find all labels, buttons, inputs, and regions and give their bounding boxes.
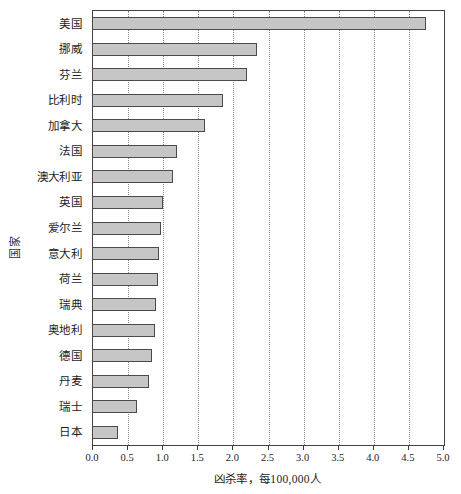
bar-row [93, 139, 444, 165]
bar-row [93, 266, 444, 292]
x-tickmark [127, 445, 128, 450]
bar-row [93, 164, 444, 190]
x-tickmark [443, 445, 444, 450]
category-label: 德国 [26, 342, 88, 368]
bars-layer [93, 11, 444, 445]
bar [92, 400, 137, 413]
x-axis-title: 凶杀率，每100,000人 [92, 470, 443, 486]
category-label: 美国 [26, 10, 88, 36]
bar [92, 247, 159, 260]
bar-row [93, 420, 444, 446]
y-axis-title-label: 国家 [5, 236, 21, 259]
category-label: 加拿大 [26, 112, 88, 138]
category-label: 挪威 [26, 36, 88, 62]
x-axis-ticklabels: 0.00.51.01.52.02.53.03.54.04.55.0 [92, 452, 443, 468]
x-ticklabel: 0.5 [121, 452, 134, 463]
bar-row [93, 37, 444, 63]
x-ticklabel: 3.0 [296, 452, 309, 463]
category-label: 澳大利亚 [26, 163, 88, 189]
category-label: 法国 [26, 138, 88, 164]
x-tickmark [303, 445, 304, 450]
x-tickmark [92, 445, 93, 450]
x-tickmark [268, 445, 269, 450]
category-label: 比利时 [26, 87, 88, 113]
x-ticklabel: 2.5 [261, 452, 274, 463]
x-ticklabel: 1.5 [191, 452, 204, 463]
category-label: 芬兰 [26, 61, 88, 87]
homicide-rate-bar-chart: 国家 美国挪威芬兰比利时加拿大法国澳大利亚英国爱尔兰意大利荷兰瑞典奥地利德国丹麦… [0, 0, 461, 494]
bar [92, 273, 158, 286]
x-tickmark [197, 445, 198, 450]
x-tickmark [162, 445, 163, 450]
bar-row [93, 113, 444, 139]
bar [92, 68, 247, 81]
bar [92, 324, 155, 337]
bar [92, 298, 156, 311]
x-tickmark [232, 445, 233, 450]
bar-row [93, 394, 444, 420]
bar-row [93, 62, 444, 88]
bar-row [93, 317, 444, 343]
bar-row [93, 215, 444, 241]
bar-row [93, 292, 444, 318]
x-ticklabel: 4.5 [401, 452, 414, 463]
bar [92, 375, 149, 388]
category-label: 丹麦 [26, 367, 88, 393]
x-tickmark [338, 445, 339, 450]
bar [92, 222, 161, 235]
x-ticklabel: 1.0 [156, 452, 169, 463]
plot-area [92, 10, 445, 446]
category-label: 荷兰 [26, 265, 88, 291]
y-axis-category-labels: 美国挪威芬兰比利时加拿大法国澳大利亚英国爱尔兰意大利荷兰瑞典奥地利德国丹麦瑞士日… [26, 10, 88, 444]
bar [92, 119, 205, 132]
x-ticklabel: 2.0 [226, 452, 239, 463]
bar [92, 43, 257, 56]
bar [92, 170, 173, 183]
bar-row [93, 11, 444, 37]
bar [92, 349, 152, 362]
category-label: 瑞典 [26, 291, 88, 317]
x-ticklabel: 3.5 [331, 452, 344, 463]
y-axis-title: 国家 [0, 0, 26, 494]
bar-row [93, 368, 444, 394]
bar-row [93, 88, 444, 114]
x-ticklabel: 4.0 [366, 452, 379, 463]
bar [92, 426, 118, 439]
bar [92, 17, 426, 30]
bar-row [93, 343, 444, 369]
category-label: 爱尔兰 [26, 214, 88, 240]
bar [92, 145, 177, 158]
category-label: 瑞士 [26, 393, 88, 419]
category-label: 日本 [26, 419, 88, 445]
x-tickmark [373, 445, 374, 450]
x-tickmark [408, 445, 409, 450]
category-label: 奥地利 [26, 316, 88, 342]
x-ticklabel: 0.0 [85, 452, 98, 463]
bar-row [93, 190, 444, 216]
category-label: 意大利 [26, 240, 88, 266]
x-axis-tickmarks [92, 445, 443, 452]
bar [92, 94, 223, 107]
bar [92, 196, 163, 209]
bar-row [93, 241, 444, 267]
x-ticklabel: 5.0 [436, 452, 449, 463]
category-label: 英国 [26, 189, 88, 215]
